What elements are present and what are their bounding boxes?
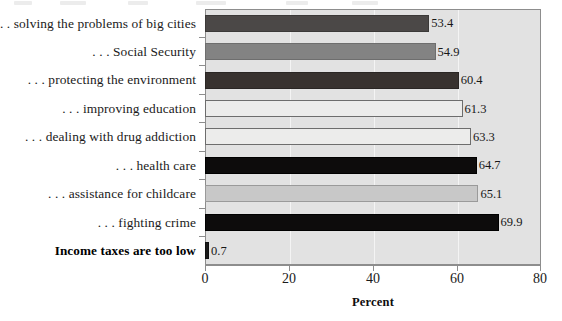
category-label: . . . dealing with drug addiction: [25, 123, 196, 151]
x-tick-label: 40: [366, 272, 380, 286]
bar-row: 64.7: [205, 151, 541, 179]
bar-value-label: 0.7: [211, 245, 227, 258]
category-axis-labels: . . . solving the problems of big cities…: [0, 9, 201, 265]
bar-row: 53.4: [205, 9, 541, 37]
category-label-emphasized: Income taxes are too low: [55, 237, 196, 265]
bar-row: 54.9: [205, 37, 541, 65]
bar-value-label: 64.7: [479, 159, 501, 172]
category-label: . . . assistance for childcare: [48, 180, 196, 208]
bar-row: 0.7: [205, 237, 541, 265]
bar-row: 69.9: [205, 208, 541, 236]
x-tick-label: 60: [450, 272, 464, 286]
category-label: . . . improving education: [62, 94, 196, 122]
category-label: . . . fighting crime: [98, 208, 196, 236]
bar-chart-figure: . . . solving the problems of big cities…: [0, 0, 562, 321]
bar: 69.9: [205, 214, 499, 231]
bar-value-label: 61.3: [465, 102, 487, 115]
bar: 60.4: [205, 72, 459, 89]
bar: 64.7: [205, 157, 477, 174]
x-tick-label: 20: [282, 272, 296, 286]
category-label: . . . health care: [116, 151, 196, 179]
bar-row: 63.3: [205, 123, 541, 151]
bar-value-label: 69.9: [501, 216, 523, 229]
category-label: . . . solving the problems of big cities: [0, 9, 196, 37]
bar: 65.1: [205, 185, 478, 202]
x-axis-title: Percent: [205, 295, 541, 310]
bar-row: 65.1: [205, 180, 541, 208]
bar: 61.3: [205, 100, 463, 117]
bar: 53.4: [205, 15, 429, 32]
bar: 0.7: [205, 242, 209, 259]
x-tick-label: 80: [533, 272, 547, 286]
bar-value-label: 53.4: [431, 17, 453, 30]
bar-value-label: 65.1: [480, 188, 502, 201]
bar-value-label: 54.9: [438, 45, 460, 58]
scan-artifact: [0, 0, 562, 7]
bar-row: 60.4: [205, 66, 541, 94]
bar-row: 61.3: [205, 94, 541, 122]
bar-value-label: 63.3: [473, 131, 495, 144]
category-label: . . . protecting the environment: [28, 66, 196, 94]
bar: 54.9: [205, 43, 436, 60]
x-tick-label: 0: [202, 272, 209, 286]
bar-value-label: 60.4: [461, 74, 483, 87]
bars-layer: 53.4 54.9 60.4 61.3 63.3 64.7: [205, 9, 541, 265]
bar: 63.3: [205, 128, 471, 145]
category-label: . . . Social Security: [92, 37, 196, 65]
